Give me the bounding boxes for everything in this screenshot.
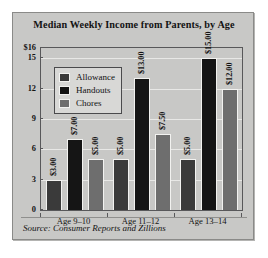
- chart-title: Median Weekly Income from Parents, by Ag…: [13, 19, 255, 30]
- y-tick-mark: [40, 118, 43, 119]
- y-tick-mark: [40, 148, 43, 149]
- y-tick-label: 6: [32, 144, 36, 153]
- bar: [180, 159, 196, 210]
- y-tick-mark: [40, 209, 43, 210]
- y-tick-label: 15: [28, 53, 36, 62]
- y-tick-label: 0: [32, 205, 36, 214]
- y-tick-label: $16: [23, 43, 36, 52]
- bar: [88, 159, 104, 210]
- legend-swatch-icon: [59, 99, 70, 108]
- bar: [201, 58, 217, 210]
- bar-value-label: $5.00: [116, 137, 125, 155]
- bar-value-label: $12.00: [225, 62, 234, 85]
- source-note: Source: Consumer Reports and Zillions: [23, 223, 166, 233]
- legend-label: Chores: [76, 99, 102, 108]
- bar-value-label: $7.00: [70, 117, 79, 135]
- bar-value-label: $5.00: [183, 137, 192, 155]
- bar-value-label: $3.00: [49, 157, 58, 175]
- legend-item[interactable]: Chores: [59, 97, 115, 110]
- y-axis: 03691215$16: [13, 47, 38, 211]
- bar: [155, 134, 171, 210]
- bar-value-label: $15.00: [204, 32, 213, 55]
- legend-swatch-icon: [59, 73, 70, 82]
- bar-value-label: $5.00: [91, 137, 100, 155]
- chart-legend: AllowanceHandoutsChores: [54, 67, 122, 114]
- legend-item[interactable]: Handouts: [59, 84, 115, 97]
- legend-item[interactable]: Allowance: [59, 71, 115, 84]
- chart-figure: Median Weekly Income from Parents, by Ag…: [12, 12, 254, 240]
- y-tick-mark: [40, 57, 43, 58]
- legend-label: Handouts: [76, 86, 111, 95]
- bar: [46, 180, 62, 210]
- bar: [113, 159, 129, 210]
- legend-swatch-icon: [59, 86, 70, 95]
- y-tick-label: 12: [28, 83, 36, 92]
- bar: [67, 139, 83, 210]
- bar: [134, 78, 150, 210]
- source-divider: [21, 217, 247, 218]
- bar: [222, 89, 238, 211]
- y-tick-label: 9: [32, 113, 36, 122]
- legend-label: Allowance: [76, 73, 115, 82]
- bar-value-label: $7.50: [158, 112, 167, 130]
- y-tick-mark: [40, 179, 43, 180]
- y-tick-mark: [40, 88, 43, 89]
- y-tick-label: 3: [32, 174, 36, 183]
- bar-value-label: $13.00: [137, 52, 146, 75]
